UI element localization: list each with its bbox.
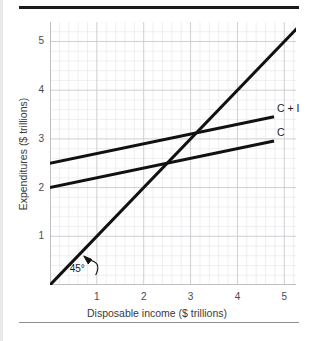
series-label-c: C bbox=[277, 127, 285, 138]
top-rule-divider bbox=[19, 6, 299, 9]
y-axis-title: Expenditures ($ trillions) bbox=[17, 54, 29, 254]
series-line-c bbox=[50, 141, 273, 187]
angle-annotation-label: 45° bbox=[70, 264, 85, 274]
y-tick-label: 5 bbox=[26, 36, 44, 46]
x-tick-label: 4 bbox=[228, 292, 246, 302]
series-layer bbox=[50, 22, 296, 285]
series-label-c-i: C + I bbox=[277, 103, 299, 114]
x-tick-label: 2 bbox=[135, 292, 153, 302]
x-tick-label: 3 bbox=[182, 292, 200, 302]
angle-arrow-icon bbox=[84, 256, 98, 275]
keynesian-cross-figure: 12345 12345 C + IC 45° Disposable income… bbox=[0, 0, 314, 341]
x-axis-title: Disposable income ($ trillions) bbox=[0, 307, 314, 319]
bottom-rule-divider bbox=[19, 322, 299, 323]
plot-area: 12345 12345 C + IC 45° bbox=[50, 22, 296, 285]
series-line-45- bbox=[50, 29, 296, 285]
x-tick-label: 5 bbox=[275, 292, 293, 302]
series-line-c-i bbox=[50, 117, 273, 163]
page-left-edge bbox=[0, 0, 3, 341]
x-tick-label: 1 bbox=[88, 292, 106, 302]
